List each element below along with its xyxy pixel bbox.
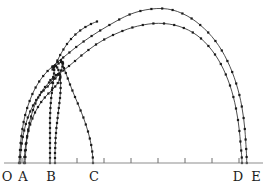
data-point-marker bbox=[32, 109, 34, 111]
data-point-marker bbox=[42, 75, 44, 77]
data-point-marker bbox=[54, 65, 56, 67]
data-point-marker bbox=[29, 110, 31, 112]
data-point-marker bbox=[60, 87, 62, 89]
data-point-marker bbox=[200, 37, 202, 39]
data-point-marker bbox=[57, 82, 59, 84]
data-point-marker bbox=[199, 24, 201, 26]
data-point-marker bbox=[51, 87, 53, 89]
data-point-marker bbox=[62, 48, 64, 50]
data-point-marker bbox=[220, 63, 222, 65]
data-point-marker bbox=[80, 54, 82, 56]
axis-label-c: C bbox=[89, 169, 99, 184]
data-point-marker bbox=[58, 107, 60, 109]
data-point-marker bbox=[40, 91, 42, 93]
data-point-marker bbox=[129, 13, 131, 15]
data-point-marker bbox=[226, 60, 228, 62]
data-point-marker bbox=[24, 114, 26, 116]
data-point-marker bbox=[58, 62, 60, 64]
data-point-marker bbox=[59, 77, 61, 79]
data-point-marker bbox=[67, 77, 69, 79]
data-point-marker bbox=[25, 143, 27, 145]
data-point-marker bbox=[53, 69, 55, 71]
data-point-marker bbox=[22, 136, 24, 138]
data-point-marker bbox=[92, 156, 94, 158]
curves-group bbox=[19, 8, 247, 163]
data-point-marker bbox=[19, 156, 21, 158]
data-point-marker bbox=[90, 144, 92, 146]
curve-outer-arc-lower bbox=[25, 23, 242, 163]
data-point-marker bbox=[55, 74, 57, 76]
data-point-marker bbox=[82, 116, 84, 118]
data-point-marker bbox=[152, 22, 154, 24]
data-point-marker bbox=[191, 17, 193, 19]
axis-label-e: E bbox=[251, 169, 261, 184]
data-point-marker bbox=[118, 18, 120, 20]
data-point-marker bbox=[32, 104, 34, 106]
data-point-marker bbox=[60, 59, 62, 61]
data-point-marker bbox=[47, 70, 49, 72]
axis-label-b: B bbox=[46, 169, 56, 184]
data-point-marker bbox=[108, 24, 110, 26]
data-point-marker bbox=[43, 89, 45, 91]
data-point-marker bbox=[221, 49, 223, 51]
data-point-marker bbox=[58, 102, 60, 104]
data-point-marker bbox=[37, 96, 39, 98]
axis-label-o: O bbox=[2, 169, 13, 184]
data-point-marker bbox=[60, 69, 62, 71]
data-point-marker bbox=[57, 112, 59, 114]
data-point-marker bbox=[59, 54, 61, 56]
data-point-marker bbox=[62, 56, 64, 58]
data-point-marker bbox=[48, 81, 50, 83]
data-point-marker bbox=[23, 121, 25, 123]
data-point-marker bbox=[49, 117, 51, 119]
data-point-marker bbox=[235, 82, 237, 84]
data-point-marker bbox=[245, 138, 247, 140]
data-point-marker bbox=[91, 150, 93, 152]
data-point-marker bbox=[37, 106, 39, 108]
data-point-marker bbox=[54, 157, 56, 159]
data-point-marker bbox=[49, 152, 51, 154]
data-point-marker bbox=[87, 130, 89, 132]
data-point-marker bbox=[54, 142, 56, 144]
data-point-marker bbox=[207, 31, 209, 33]
data-point-marker bbox=[131, 26, 133, 28]
data-point-marker bbox=[62, 69, 64, 71]
data-point-marker bbox=[231, 71, 233, 73]
data-point-marker bbox=[49, 127, 51, 129]
data-point-marker bbox=[34, 111, 36, 113]
data-point-marker bbox=[95, 43, 97, 45]
data-point-marker bbox=[240, 149, 242, 151]
data-point-marker bbox=[96, 20, 98, 22]
data-point-marker bbox=[87, 49, 89, 51]
curve-outer-arc-upper bbox=[19, 8, 247, 163]
data-point-marker bbox=[90, 23, 92, 25]
data-point-marker bbox=[57, 117, 59, 119]
data-point-marker bbox=[246, 156, 248, 158]
data-point-marker bbox=[142, 24, 144, 26]
data-point-marker bbox=[214, 53, 216, 55]
data-point-marker bbox=[69, 83, 71, 85]
data-point-marker bbox=[61, 62, 63, 64]
data-point-marker bbox=[225, 73, 227, 75]
data-point-marker bbox=[55, 132, 57, 134]
data-point-marker bbox=[75, 46, 77, 48]
data-point-marker bbox=[60, 82, 62, 84]
data-point-marker bbox=[49, 112, 51, 114]
data-point-marker bbox=[24, 149, 26, 151]
data-point-marker bbox=[31, 117, 33, 119]
data-point-marker bbox=[83, 40, 85, 42]
data-point-marker bbox=[237, 119, 239, 121]
data-point-marker bbox=[91, 35, 93, 37]
data-point-marker bbox=[47, 85, 49, 87]
data-point-marker bbox=[71, 89, 73, 91]
axis-label-d: D bbox=[233, 169, 243, 184]
data-point-marker bbox=[150, 8, 152, 10]
data-point-marker bbox=[232, 96, 234, 98]
data-point-marker bbox=[235, 107, 237, 109]
data-point-marker bbox=[53, 77, 55, 79]
data-point-marker bbox=[50, 102, 52, 104]
data-point-marker bbox=[40, 101, 42, 103]
data-point-marker bbox=[49, 147, 51, 149]
data-point-marker bbox=[243, 117, 245, 119]
data-point-marker bbox=[51, 92, 53, 94]
